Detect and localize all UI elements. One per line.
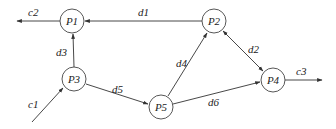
node-label-p1: P1 [65, 15, 78, 27]
edge-label-c2: c2 [28, 6, 39, 18]
process-graph-diagram: P1 P2 P3 P5 P4 c2 d1 d3 c1 d5 d4 d2 d6 c… [0, 0, 336, 129]
edge-label-d6: d6 [208, 96, 220, 108]
edge-label-c3: c3 [296, 65, 307, 77]
edge-label-c1: c1 [28, 98, 38, 110]
node-label-p2: P2 [207, 15, 221, 27]
node-p4: P4 [261, 68, 285, 92]
edge-label-d5: d5 [112, 83, 124, 95]
node-label-p4: P4 [266, 74, 280, 86]
edge-label-d3: d3 [56, 46, 68, 58]
edge-label-d4: d4 [176, 57, 188, 69]
node-p2: P2 [202, 9, 226, 33]
node-p3: P3 [62, 67, 86, 91]
edge-label-d2: d2 [248, 43, 260, 55]
node-p1: P1 [60, 9, 84, 33]
edge-d4 [168, 33, 207, 96]
edge-d3 [73, 34, 74, 67]
node-label-p3: P3 [67, 73, 81, 85]
node-label-p5: P5 [154, 101, 168, 113]
node-p5: P5 [149, 95, 173, 119]
edge-label-d1: d1 [138, 6, 149, 18]
